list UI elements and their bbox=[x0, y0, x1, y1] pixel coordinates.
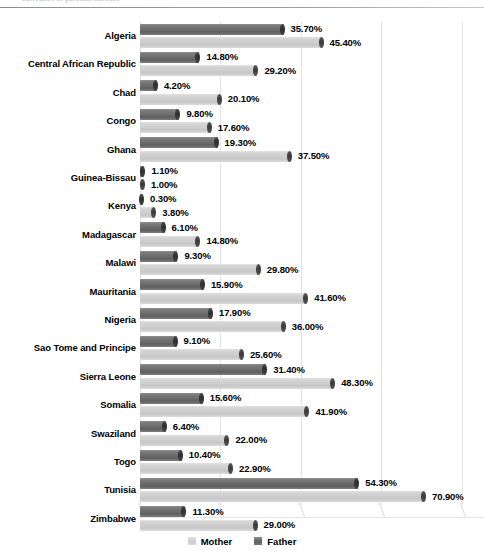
bar-father[interactable]: 54.30% bbox=[140, 478, 484, 489]
category-label: Central African Republic bbox=[0, 58, 136, 70]
bar-fill-mother bbox=[140, 293, 307, 304]
bar-father[interactable]: 10.40% bbox=[140, 450, 484, 461]
bar-fill-father bbox=[140, 450, 182, 461]
category-label: Chad bbox=[0, 87, 136, 99]
bar-value-label: 45.40% bbox=[330, 37, 362, 49]
bar-end-cap bbox=[256, 264, 261, 275]
bar-group-row: Chad4.20%20.10% bbox=[0, 79, 484, 107]
category-label: Swaziland bbox=[0, 428, 136, 440]
bar-value-label: 48.30% bbox=[341, 377, 373, 389]
bar-value-label: 22.90% bbox=[239, 463, 271, 475]
bar-value-label: 22.00% bbox=[235, 434, 267, 446]
bar-value-label: 11.30% bbox=[192, 506, 223, 518]
bar-group-row: Guinea-Bissau1.10%1.00% bbox=[0, 164, 484, 192]
bar-mother[interactable]: 36.00% bbox=[140, 321, 484, 332]
bar-fill-father bbox=[140, 364, 266, 375]
bar-value-label: 29.80% bbox=[267, 264, 299, 276]
bar-mother[interactable]: 29.00% bbox=[140, 520, 484, 531]
bar-value-label: 29.00% bbox=[264, 519, 296, 531]
bar-group-row: Madagascar6.10%14.80% bbox=[0, 221, 484, 249]
bar-fill-mother bbox=[140, 236, 199, 247]
bar-father[interactable]: 15.90% bbox=[140, 279, 484, 290]
bar-value-label: 1.00% bbox=[151, 179, 177, 191]
bar-value-label: 54.30% bbox=[365, 477, 397, 489]
bar-fill-father bbox=[140, 421, 166, 432]
bar-mother[interactable]: 41.90% bbox=[140, 406, 484, 417]
bar-father[interactable]: 14.80% bbox=[140, 52, 484, 63]
category-label: Sao Tome and Principe bbox=[0, 342, 136, 354]
bar-father[interactable]: 11.30% bbox=[140, 506, 484, 517]
category-label: Guinea-Bissau bbox=[0, 172, 136, 184]
category-label: Congo bbox=[0, 115, 136, 127]
bar-group-row: Zimbabwe11.30%29.00% bbox=[0, 505, 484, 533]
category-label: Tunisia bbox=[0, 484, 136, 496]
bar-end-cap bbox=[287, 151, 292, 162]
bar-end-cap bbox=[195, 52, 200, 63]
bar-mother[interactable]: 20.10% bbox=[140, 94, 484, 105]
bar-fill-mother bbox=[140, 463, 232, 474]
bar-fill-father bbox=[140, 24, 284, 35]
bar-father[interactable]: 4.20% bbox=[140, 80, 484, 91]
legend-item-mother[interactable]: Mother bbox=[188, 536, 233, 547]
bar-father[interactable]: 9.10% bbox=[140, 336, 484, 347]
bar-fill-mother bbox=[140, 378, 334, 389]
bar-value-label: 17.90% bbox=[219, 307, 251, 319]
bar-group-row: Sao Tome and Principe9.10%25.60% bbox=[0, 334, 484, 362]
bar-father[interactable]: 15.60% bbox=[140, 393, 484, 404]
bar-father[interactable]: 6.40% bbox=[140, 421, 484, 432]
bar-father[interactable]: 9.80% bbox=[140, 109, 484, 120]
bar-mother[interactable]: 1.00% bbox=[140, 179, 484, 190]
bar-value-label: 6.10% bbox=[172, 222, 198, 234]
bar-group-row: Mauritania15.90%41.60% bbox=[0, 278, 484, 306]
bar-fill-mother bbox=[140, 321, 285, 332]
category-label: Togo bbox=[0, 456, 136, 468]
bar-mother[interactable]: 41.60% bbox=[140, 293, 484, 304]
bar-fill-father bbox=[140, 80, 157, 91]
bar-end-cap bbox=[153, 80, 158, 91]
bar-mother[interactable]: 3.80% bbox=[140, 207, 484, 218]
bar-end-cap bbox=[195, 236, 200, 247]
bar-group-row: Algeria35.70%45.40% bbox=[0, 22, 484, 50]
bar-father[interactable]: 17.90% bbox=[140, 308, 484, 319]
bar-end-cap bbox=[208, 308, 213, 319]
bar-value-label: 3.80% bbox=[162, 207, 188, 219]
bar-end-cap bbox=[224, 435, 229, 446]
bar-father[interactable]: 31.40% bbox=[140, 364, 484, 375]
bar-value-label: 17.60% bbox=[218, 122, 250, 134]
bar-value-label: 4.20% bbox=[164, 80, 190, 92]
bar-end-cap bbox=[214, 137, 219, 148]
bar-end-cap bbox=[200, 279, 205, 290]
bar-mother[interactable]: 45.40% bbox=[140, 37, 484, 48]
bar-fill-mother bbox=[140, 65, 257, 76]
bar-fill-father bbox=[140, 393, 203, 404]
category-label: Madagascar bbox=[0, 229, 136, 241]
bar-mother[interactable]: 22.00% bbox=[140, 435, 484, 446]
bar-mother[interactable]: 70.90% bbox=[140, 491, 484, 502]
bar-group-row: Swaziland6.40%22.00% bbox=[0, 420, 484, 448]
bar-father[interactable]: 35.70% bbox=[140, 24, 484, 35]
bar-fill-mother bbox=[140, 94, 221, 105]
bar-father[interactable]: 1.10% bbox=[140, 166, 484, 177]
bar-end-cap bbox=[173, 251, 178, 262]
bar-mother[interactable]: 14.80% bbox=[140, 236, 484, 247]
legend-item-father[interactable]: Father bbox=[254, 536, 296, 547]
bar-father[interactable]: 9.30% bbox=[140, 251, 484, 262]
bar-value-label: 14.80% bbox=[206, 51, 238, 63]
bar-mother[interactable]: 22.90% bbox=[140, 463, 484, 474]
bar-end-cap bbox=[228, 463, 233, 474]
bar-mother[interactable]: 25.60% bbox=[140, 349, 484, 360]
bar-mother[interactable]: 37.50% bbox=[140, 151, 484, 162]
bar-father[interactable]: 6.10% bbox=[140, 222, 484, 233]
bar-value-label: 9.30% bbox=[184, 250, 210, 262]
bar-end-cap bbox=[140, 166, 145, 177]
bar-fill-father bbox=[140, 478, 358, 489]
bar-end-cap bbox=[330, 378, 335, 389]
bar-mother[interactable]: 17.60% bbox=[140, 122, 484, 133]
bar-father[interactable]: 0.30% bbox=[140, 194, 484, 205]
bar-father[interactable]: 19.30% bbox=[140, 137, 484, 148]
bar-value-label: 0.30% bbox=[150, 193, 176, 205]
bar-mother[interactable]: 29.80% bbox=[140, 264, 484, 275]
bar-mother[interactable]: 29.20% bbox=[140, 65, 484, 76]
bar-end-cap bbox=[161, 222, 166, 233]
bar-mother[interactable]: 48.30% bbox=[140, 378, 484, 389]
